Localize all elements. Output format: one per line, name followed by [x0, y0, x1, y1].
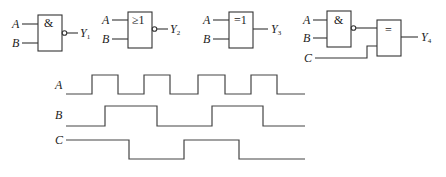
gate-2-output-label: Y2	[170, 22, 181, 37]
gate-4-output-label: Y4	[421, 30, 432, 45]
waveform-c-label: C	[55, 133, 64, 147]
timing-diagram: A B C	[54, 75, 305, 159]
gate-2-input-b-label: B	[102, 32, 110, 46]
gate-2-input-a-label: A	[101, 13, 110, 27]
gate-1-inversion-bubble-icon	[62, 31, 67, 36]
waveform-b-label: B	[55, 108, 63, 122]
waveform-a	[66, 75, 305, 94]
gate-4-input-c-wire	[315, 46, 377, 58]
logic-diagram: A B & Y1 A B ≥1 Y2 A B =1 Y3 A B C	[0, 0, 446, 177]
gate-3-input-a-label: A	[202, 13, 211, 27]
gate-4-input-b-label: B	[303, 31, 311, 45]
waveform-c	[66, 140, 305, 159]
gate-1-input-b-label: B	[12, 36, 20, 50]
gate-1-input-a-label: A	[11, 17, 20, 31]
gate-3-input-b-label: B	[203, 32, 211, 46]
gate-1-output-label: Y1	[80, 26, 91, 41]
gate-4-composite: A B C & = Y4	[302, 11, 432, 65]
gate-4-input-a-label: A	[302, 13, 311, 27]
gate-2-nor: A B ≥1 Y2	[101, 12, 181, 48]
waveform-a-label: A	[54, 78, 63, 92]
gate-4-input-c-label: C	[304, 51, 313, 65]
gate-1-nand: A B & Y1	[11, 15, 91, 51]
gate-4-nand-symbol: &	[334, 13, 344, 27]
gate-2-symbol: ≥1	[132, 13, 145, 27]
gate-1-symbol: &	[44, 16, 54, 30]
gate-4-nand-inversion-bubble-icon	[351, 26, 356, 31]
gate-3-output-label: Y3	[271, 22, 282, 37]
gate-4-xnor-symbol: =	[385, 23, 392, 37]
waveform-b	[66, 106, 305, 126]
gate-3-xor: A B =1 Y3	[202, 12, 282, 48]
gate-3-symbol: =1	[234, 13, 247, 27]
gate-2-inversion-bubble-icon	[152, 27, 157, 32]
